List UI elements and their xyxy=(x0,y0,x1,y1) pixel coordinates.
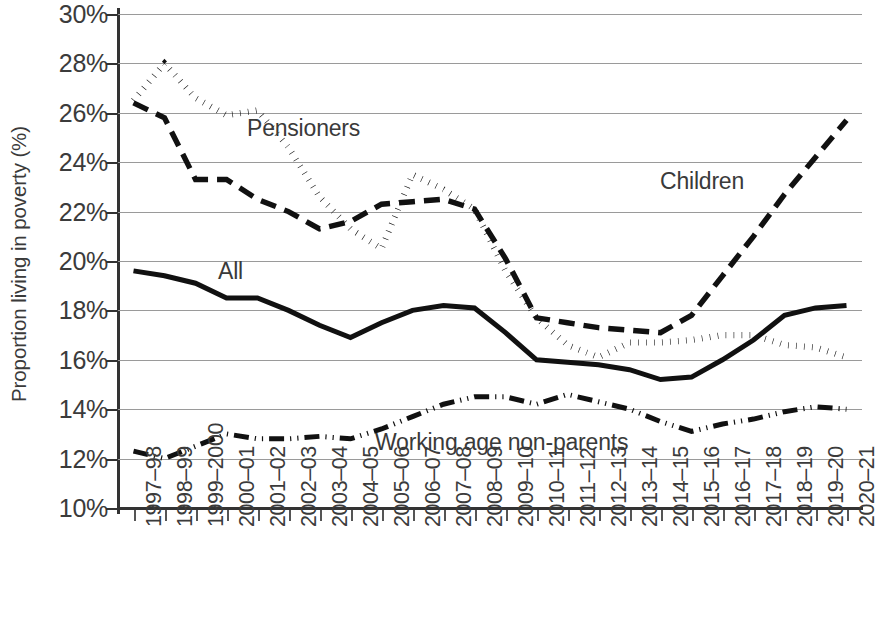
x-axis-tick-label: 2005–06 xyxy=(390,446,415,527)
x-axis-tick-label: 2015–16 xyxy=(700,446,725,527)
y-axis-tick-labels: 30%28%26%24%22%20%18%16%14%12%10% xyxy=(28,0,108,530)
y-axis-tick-label: 30% xyxy=(59,0,108,29)
series-label-all: All xyxy=(218,258,243,285)
y-axis-tick-label: 16% xyxy=(59,345,108,374)
y-axis-tick-label: 20% xyxy=(59,247,108,276)
x-axis-tick-label: 2013–14 xyxy=(638,446,663,527)
y-axis-tick-label: 12% xyxy=(59,444,108,473)
x-axis-tick-label: 1999–2000 xyxy=(204,423,229,527)
x-axis-tick-label: 2019–20 xyxy=(824,446,849,527)
y-axis-tick-label: 24% xyxy=(59,148,108,177)
x-axis-tick-label: 2008–09 xyxy=(483,446,508,527)
y-axis-tick-label: 14% xyxy=(59,395,108,424)
x-axis-tick-label: 2020–21 xyxy=(855,446,879,527)
series-label-children: Children xyxy=(660,168,744,195)
y-axis-tick-mark xyxy=(106,508,119,510)
x-axis-tick-mark xyxy=(134,510,136,521)
y-axis-tick-label: 10% xyxy=(59,494,108,523)
x-axis-tick-label: 1997–98 xyxy=(142,446,167,527)
x-axis-tick-label: 1998–99 xyxy=(173,446,198,527)
x-axis-tick-label: 2006–07 xyxy=(421,446,446,527)
series-label-pensioners: Pensioners xyxy=(247,115,360,142)
x-axis-tick-label: 2009–10 xyxy=(514,446,539,527)
x-axis-tick-label: 2014–15 xyxy=(669,446,694,527)
y-axis-tick-label: 22% xyxy=(59,197,108,226)
x-axis-tick-label: 2018–19 xyxy=(793,446,818,527)
x-axis-tick-label: 2007–08 xyxy=(452,446,477,527)
x-axis-tick-label: 2010–11 xyxy=(545,448,570,527)
x-axis-tick-label: 2002–03 xyxy=(297,446,322,527)
x-axis-tick-label: 2011–12 xyxy=(576,448,601,527)
x-axis-tick-label: 2000–01 xyxy=(235,446,260,527)
x-axis-tick-label: 2016–17 xyxy=(731,446,756,527)
x-axis-tick-label: 2012–13 xyxy=(607,446,632,527)
y-axis-tick-label: 18% xyxy=(59,296,108,325)
x-axis-tick-label: 2004–05 xyxy=(359,446,384,527)
series-line-pensioners xyxy=(134,63,847,357)
y-axis-tick-label: 28% xyxy=(59,49,108,78)
series-line-all xyxy=(134,271,847,380)
x-axis-tick-label: 2003–04 xyxy=(328,446,353,527)
x-axis-tick-label: 2001–02 xyxy=(266,446,291,527)
y-axis-tick-label: 26% xyxy=(59,98,108,127)
x-axis-tick-label: 2017–18 xyxy=(762,446,787,527)
